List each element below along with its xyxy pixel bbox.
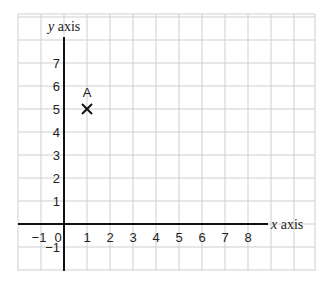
coordinate-grid: −1012345678 −11234567 y axis x axis A <box>0 0 327 288</box>
plotted-points: A <box>82 85 92 114</box>
x-tick-label: 5 <box>175 230 182 245</box>
x-tick-label: 6 <box>198 230 205 245</box>
x-tick-label: 3 <box>129 230 136 245</box>
x-tick-label: 7 <box>221 230 228 245</box>
y-tick-label: 3 <box>53 148 60 163</box>
y-tick-label: 4 <box>53 125 60 140</box>
y-tick-label: 5 <box>53 102 60 117</box>
x-tick-label: 4 <box>152 230 159 245</box>
grid-lines <box>18 14 315 271</box>
x-axis-label: x axis <box>270 217 303 232</box>
x-tick-label: 2 <box>106 230 113 245</box>
y-tick-label: 7 <box>53 56 60 71</box>
y-tick-label: 6 <box>53 79 60 94</box>
x-tick-label: 8 <box>244 230 251 245</box>
y-tick-label: 2 <box>53 171 60 186</box>
x-tick-label: 1 <box>83 230 90 245</box>
point-label: A <box>83 85 92 100</box>
y-tick-label: −1 <box>45 240 60 255</box>
y-tick-label: 1 <box>53 194 60 209</box>
y-axis-label: y axis <box>46 19 80 34</box>
